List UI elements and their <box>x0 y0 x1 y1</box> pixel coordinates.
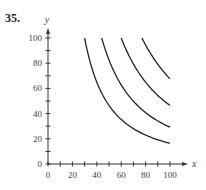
x-tick-label: 40 <box>92 170 102 180</box>
y-tick-label: 40 <box>33 109 43 119</box>
curve-2 <box>102 38 170 127</box>
y-tick-label: 80 <box>33 58 43 68</box>
curve-4 <box>142 38 170 79</box>
curve-1 <box>85 38 170 143</box>
x-axis-label: x <box>191 158 197 169</box>
x-tick-label: 60 <box>117 170 127 180</box>
y-tick-label: 100 <box>29 33 43 43</box>
x-tick-label: 0 <box>46 170 51 180</box>
x-axis-arrow-icon <box>182 162 188 166</box>
y-tick-label: 0 <box>38 159 43 169</box>
x-tick-label: 20 <box>68 170 78 180</box>
chart: 020406080100020406080100xy <box>0 0 206 190</box>
y-axis-arrow-icon <box>46 28 50 34</box>
x-tick-label: 100 <box>163 170 177 180</box>
y-tick-label: 60 <box>33 83 43 93</box>
y-tick-label: 20 <box>33 134 43 144</box>
x-tick-label: 80 <box>141 170 151 180</box>
y-axis-label: y <box>44 14 50 25</box>
